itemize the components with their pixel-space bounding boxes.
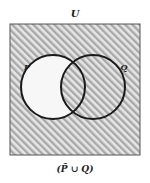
set-q-label: Q [121, 62, 128, 72]
set-p-label: P [23, 62, 31, 72]
universe-label: U [71, 8, 81, 19]
caption: (P̃ ∪ Q) [57, 163, 94, 174]
venn-diagram: U P Q (P̃ ∪ Q) [0, 0, 150, 183]
